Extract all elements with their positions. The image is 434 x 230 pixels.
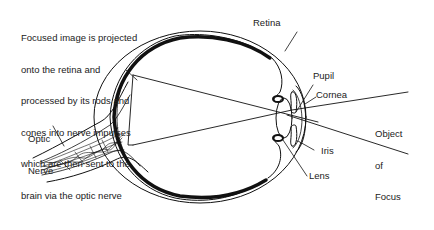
label-optic-nerve-line1: Optic (28, 134, 53, 145)
description-line: onto the retina and (21, 65, 137, 76)
label-object-line3: Focus (375, 192, 402, 203)
label-object-line1: Object (375, 129, 402, 140)
iris-lower (291, 125, 297, 146)
light-ray-upper (133, 75, 318, 122)
description-line: processed by its rods and (21, 96, 137, 107)
label-pupil: Pupil (313, 71, 334, 82)
label-object-line2: of (375, 161, 402, 172)
label-optic-nerve-line2: Nerve (28, 166, 53, 177)
cornea-leader (305, 97, 316, 104)
description-line: brain via the optic nerve (21, 191, 137, 202)
lens (276, 98, 292, 138)
label-iris: Iris (321, 146, 334, 157)
label-optic-nerve: Optic Nerve (28, 113, 53, 187)
light-ray-lower (133, 92, 408, 145)
label-retina: Retina (253, 18, 280, 29)
retina-leader (285, 32, 297, 51)
label-lens: Lens (309, 171, 330, 182)
ciliary-body-lower (268, 136, 281, 178)
retina-layer (114, 37, 270, 198)
label-cornea: Cornea (316, 90, 347, 101)
label-object-of-focus: Object of Focus (375, 108, 402, 213)
description-line: Focused image is projected (21, 33, 137, 44)
